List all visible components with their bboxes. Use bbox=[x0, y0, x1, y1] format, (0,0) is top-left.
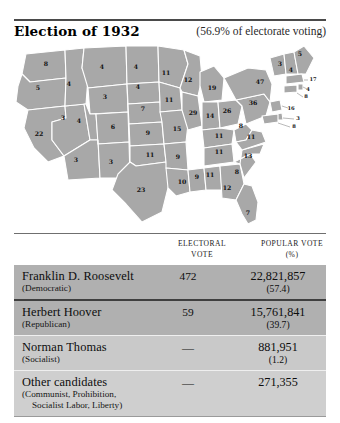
party-line-2: Socialist Labor, Liberty) bbox=[22, 400, 326, 411]
popular-vote-value: 881,951 bbox=[230, 340, 326, 354]
electoral-map: 8522344343634479112311111591012299191411… bbox=[8, 44, 338, 230]
state-ev-or: 5 bbox=[36, 84, 40, 91]
figure-header: Election of 1932 (56.9% of electorate vo… bbox=[14, 23, 326, 43]
state-ev-ky: 11 bbox=[215, 132, 224, 139]
electoral-vote-value: — bbox=[152, 341, 224, 356]
column-header-popular: POPULAR VOTE (%) bbox=[244, 238, 340, 260]
state-ev-sc: 8 bbox=[235, 168, 239, 175]
state-ev-pa: 36 bbox=[249, 99, 258, 106]
popular-vote-value: 271,355 bbox=[230, 375, 326, 389]
state-ev-ga: 12 bbox=[223, 184, 232, 191]
table-row: Other candidates(Communist, Prohibition,… bbox=[14, 371, 326, 416]
results-table: Franklin D. Roosevelt(Democratic)47222,8… bbox=[14, 265, 326, 417]
electoral-header-line1: ELECTORAL bbox=[178, 239, 226, 248]
popular-header-line2: (%) bbox=[286, 250, 299, 259]
table-header: ELECTORAL VOTE POPULAR VOTE (%) bbox=[14, 238, 326, 264]
election-1932-figure: Election of 1932 (56.9% of electorate vo… bbox=[0, 0, 340, 423]
state-ev-mt: 4 bbox=[100, 63, 105, 70]
state-ev-wy: 3 bbox=[103, 93, 107, 100]
state-ev-nc: 13 bbox=[244, 152, 253, 159]
state-ev-tn: 11 bbox=[215, 148, 224, 155]
electoral-vote-value: 59 bbox=[152, 306, 224, 318]
state-ev-ia: 11 bbox=[165, 96, 174, 103]
state-ev-id: 4 bbox=[67, 80, 72, 87]
state-ev-ut: 4 bbox=[77, 117, 82, 124]
state-ev-ne: 7 bbox=[141, 105, 145, 112]
header-rule bbox=[14, 19, 326, 21]
state-ev-mn: 11 bbox=[162, 69, 171, 76]
table-row: Herbert Hoover(Republican)5915,761,841(3… bbox=[14, 301, 326, 335]
table-bottom-rule bbox=[14, 416, 326, 417]
state-ev-mo: 15 bbox=[173, 125, 182, 132]
state-ev-ar: 9 bbox=[176, 153, 180, 160]
callout-ev-de: 3 bbox=[296, 115, 300, 121]
callout-ev-md: 8 bbox=[292, 123, 296, 129]
electoral-header-line2: VOTE bbox=[191, 250, 213, 259]
callout-ev-nj: 16 bbox=[287, 105, 295, 111]
party-line-1: (Democratic) bbox=[22, 283, 71, 293]
popular-vote-value: 15,761,841 bbox=[230, 305, 326, 319]
party-line-1: (Socialist) bbox=[22, 354, 60, 364]
state-ev-ks: 9 bbox=[146, 129, 150, 136]
state-ev-nv: 3 bbox=[61, 114, 65, 121]
callout-ev-ma: 17 bbox=[309, 76, 317, 82]
state-ev-co: 6 bbox=[111, 123, 115, 130]
popular-vote-cell: 271,355 bbox=[230, 375, 326, 389]
callout-ev-ri: 4 bbox=[306, 86, 310, 92]
table-row: Franklin D. Roosevelt(Democratic)47222,8… bbox=[14, 265, 326, 299]
state-ev-ny: 47 bbox=[256, 78, 265, 85]
turnout-note: (56.9% of electorate voting) bbox=[196, 25, 326, 37]
party-line-1: (Republican) bbox=[22, 319, 70, 329]
state-ev-nm: 3 bbox=[109, 158, 113, 165]
state-ev-mi: 19 bbox=[208, 84, 217, 91]
electoral-vote-value: 472 bbox=[152, 270, 224, 282]
state-ev-vt: 3 bbox=[278, 60, 282, 67]
popular-vote-percent: (1.2) bbox=[230, 354, 326, 365]
state-ev-wi: 12 bbox=[184, 76, 193, 83]
state-ev-oh: 26 bbox=[223, 107, 232, 114]
state-ev-nd: 4 bbox=[134, 63, 139, 70]
popular-header-line1: POPULAR VOTE bbox=[261, 239, 323, 248]
state-ev-wa: 8 bbox=[44, 60, 48, 67]
state-ev-al: 11 bbox=[206, 171, 215, 178]
state-ev-ca: 22 bbox=[35, 130, 44, 137]
state-ev-il: 29 bbox=[189, 109, 198, 116]
column-header-electoral: ELECTORAL VOTE bbox=[166, 238, 238, 260]
state-ev-sd: 4 bbox=[136, 83, 141, 90]
popular-vote-percent: (57.4) bbox=[230, 283, 326, 294]
state-ev-tx: 23 bbox=[137, 186, 146, 193]
state-ev-me: 5 bbox=[298, 50, 302, 57]
state-ev-in: 14 bbox=[206, 112, 215, 119]
state-ev-nh: 4 bbox=[289, 66, 294, 73]
popular-vote-percent: (39.7) bbox=[230, 319, 326, 330]
candidate-party: (Communist, Prohibition,Socialist Labor,… bbox=[22, 389, 326, 411]
table-top-rule bbox=[14, 233, 326, 234]
popular-vote-cell: 15,761,841(39.7) bbox=[230, 305, 326, 330]
electoral-vote-value: — bbox=[152, 376, 224, 391]
state-ev-va: 11 bbox=[247, 133, 256, 140]
state-ev-wv: 8 bbox=[239, 122, 243, 129]
state-ev-la: 10 bbox=[178, 178, 187, 185]
callout-ev-ct: 8 bbox=[304, 93, 308, 99]
state-ev-ok: 11 bbox=[146, 151, 155, 158]
page-title: Election of 1932 bbox=[14, 23, 140, 39]
state-ev-fl: 7 bbox=[246, 209, 250, 216]
table-row: Norman Thomas(Socialist)—881,951(1.2) bbox=[14, 336, 326, 370]
popular-vote-value: 22,821,857 bbox=[230, 269, 326, 283]
state-ev-az: 3 bbox=[74, 156, 78, 163]
popular-vote-cell: 881,951(1.2) bbox=[230, 340, 326, 365]
party-line-1: (Communist, Prohibition, bbox=[22, 389, 116, 399]
popular-vote-cell: 22,821,857(57.4) bbox=[230, 269, 326, 294]
state-ev-ms: 9 bbox=[195, 173, 199, 180]
